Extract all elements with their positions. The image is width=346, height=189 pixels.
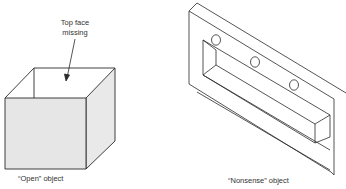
cube-front-face bbox=[5, 98, 86, 169]
nonsense-object-caption: “Nonsense” object bbox=[228, 177, 289, 185]
annotation-line-1: Top face bbox=[57, 19, 93, 27]
diagram-canvas bbox=[0, 0, 346, 189]
open-object-cube bbox=[5, 68, 115, 169]
hole-3 bbox=[290, 80, 299, 90]
hole-2 bbox=[251, 57, 260, 67]
nonsense-object bbox=[189, 3, 346, 175]
arrow-icon bbox=[65, 39, 76, 81]
hole-1 bbox=[212, 35, 221, 45]
cube-right-face bbox=[86, 68, 115, 169]
annotation-line-2: missing bbox=[57, 29, 93, 37]
open-object-caption: “Open” object bbox=[18, 175, 63, 183]
